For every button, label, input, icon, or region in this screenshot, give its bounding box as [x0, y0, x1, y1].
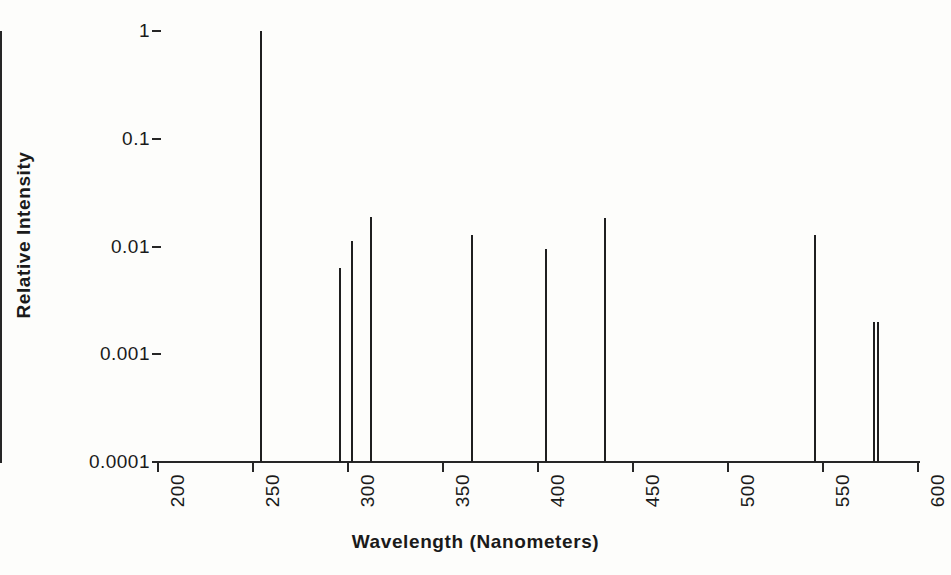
x-tick-label: 550: [832, 474, 854, 507]
y-tick-mark: [152, 138, 161, 140]
spectral-line: [351, 241, 353, 462]
x-tick-label: 200: [167, 474, 189, 507]
spectral-line: [877, 322, 879, 462]
x-axis-title: Wavelength (Nanometers): [0, 531, 951, 553]
y-axis-line: [0, 31, 2, 463]
x-axis-tick-labels: 200250300350400450500550600: [0, 470, 951, 530]
x-tick-label: 500: [737, 474, 759, 507]
spectral-line: [545, 249, 547, 462]
y-tick-mark: [152, 30, 161, 32]
spectrum-chart: Relative Intensity 10.10.010.0010.0001 2…: [0, 0, 951, 575]
y-axis-title-text: Relative Intensity: [13, 151, 35, 318]
y-tick-label: 0.01: [111, 236, 150, 258]
y-tick-mark: [152, 353, 161, 355]
spectral-line: [260, 31, 262, 462]
spectral-line: [471, 235, 473, 462]
plot-area: [158, 31, 918, 462]
spectral-line: [814, 235, 816, 462]
x-tick-label: 450: [642, 474, 664, 507]
spectral-line: [370, 217, 372, 462]
spectral-line: [873, 322, 875, 462]
x-tick-label: 300: [357, 474, 379, 507]
x-tick-label: 600: [927, 474, 949, 507]
x-tick-label: 250: [262, 474, 284, 507]
spectral-line: [604, 218, 606, 462]
x-tick-label: 350: [452, 474, 474, 507]
y-tick-label: 0.1: [122, 128, 150, 150]
y-tick-label: 1: [139, 20, 150, 42]
x-tick-label: 400: [547, 474, 569, 507]
y-tick-mark: [152, 246, 161, 248]
y-tick-label: 0.001: [100, 343, 150, 365]
spectral-line: [339, 268, 341, 462]
